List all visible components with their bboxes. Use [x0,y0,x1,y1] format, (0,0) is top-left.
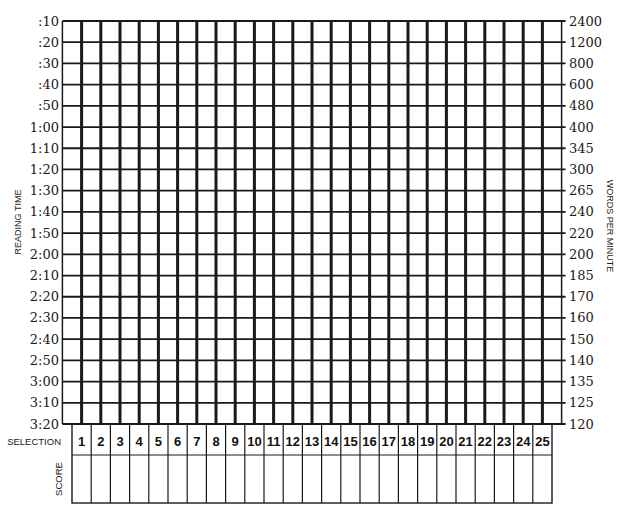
reading-time-tick: 1:10 [30,141,59,156]
selection-number: 16 [362,434,376,449]
wpm-tick: 600 [569,77,594,92]
reading-time-tick: 1:20 [30,162,59,177]
wpm-tick: 200 [569,247,594,262]
reading-time-tick: 2:20 [30,289,59,304]
selection-number: 23 [497,434,511,449]
wpm-tick: 140 [569,353,594,368]
reading-time-axis-title: READING TIME [13,190,23,255]
reading-time-tick: :10 [38,14,59,29]
selection-row-label: SELECTION [7,436,61,447]
selection-number: 17 [382,434,396,449]
wpm-tick: 120 [569,417,594,432]
reading-time-tick: 1:00 [30,120,59,135]
wpm-tick: 2400 [569,14,602,29]
reading-time-tick: 2:00 [30,247,59,262]
selection-number: 7 [193,434,200,449]
selection-number: 12 [286,434,300,449]
wpm-tick: 400 [569,120,594,135]
selection-number: 11 [267,434,281,449]
reading-time-tick: 3:10 [30,395,59,410]
selection-number: 25 [535,434,549,449]
wpm-tick: 220 [569,226,594,241]
selection-number: 2 [97,434,104,449]
reading-time-tick: :30 [38,56,59,71]
selection-number: 24 [516,434,531,449]
reading-time-tick: 1:30 [30,183,59,198]
plot-grid [62,21,565,424]
reading-time-tick: 1:50 [30,226,59,241]
words-per-minute-axis: 2400120080060048040034530026524022020018… [569,14,602,432]
selection-number: 9 [232,434,239,449]
wpm-tick: 480 [569,98,594,113]
selection-number: 10 [247,434,261,449]
selection-number: 8 [212,434,219,449]
selection-score-table: 1234567891011121314151617181920212223242… [72,424,552,503]
reading-time-tick: :40 [38,77,59,92]
selection-number: 6 [174,434,181,449]
wpm-tick: 170 [569,289,594,304]
reading-time-tick: 2:40 [30,332,59,347]
selection-number: 3 [116,434,123,449]
reading-time-axis: :10:20:30:40:501:001:101:201:301:401:502… [30,14,59,432]
reading-time-tick: 2:50 [30,353,59,368]
reading-time-tick: 2:30 [30,310,59,325]
score-row-label: SCORE [53,462,64,496]
selection-number: 18 [401,434,415,449]
wpm-tick: 125 [569,395,594,410]
selection-number: 5 [155,434,162,449]
reading-time-tick: 3:00 [30,374,59,389]
wpm-tick: 800 [569,56,594,71]
wpm-tick: 150 [569,332,594,347]
selection-number: 13 [305,434,319,449]
words-per-minute-axis-title: WORDS PER MINUTE [605,180,615,273]
wpm-tick: 185 [569,268,594,283]
selection-number: 22 [478,434,492,449]
wpm-tick: 345 [569,141,594,156]
reading-time-tick: :20 [38,35,59,50]
wpm-tick: 300 [569,162,594,177]
selection-number: 21 [458,434,472,449]
wpm-tick: 135 [569,374,594,389]
selection-number: 19 [420,434,434,449]
reading-time-tick: :50 [38,98,59,113]
wpm-tick: 1200 [569,35,602,50]
selection-number: 1 [78,434,85,449]
selection-number: 14 [324,434,339,449]
wpm-tick: 240 [569,204,594,219]
reading-time-tick: 3:20 [30,417,59,432]
wpm-tick: 160 [569,310,594,325]
reading-rate-chart: :10:20:30:40:501:001:101:201:301:401:502… [0,0,622,524]
wpm-tick: 265 [569,183,594,198]
selection-number: 15 [343,434,357,449]
reading-time-tick: 1:40 [30,204,59,219]
selection-number: 20 [439,434,453,449]
selection-number: 4 [136,434,144,449]
reading-time-tick: 2:10 [30,268,59,283]
